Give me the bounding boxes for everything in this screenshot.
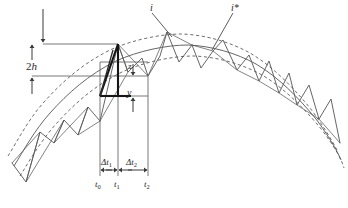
i-star-leader-line: [212, 13, 233, 50]
switched-current-zigzag-group: [12, 32, 340, 182]
figure-canvas: [0, 0, 348, 208]
t1-axis-label: t1: [114, 180, 120, 190]
reference-current-i-star-curve: [14, 45, 341, 166]
i-leader-line: [152, 13, 172, 37]
switched-current-left-crossing-strand: [12, 107, 100, 182]
delta-t1-label: Δt1: [101, 158, 112, 168]
signal-label-i: i: [150, 3, 153, 13]
reference-current-curve-group: [14, 45, 341, 166]
lower-hysteresis-band-curve: [20, 56, 344, 176]
reference-signal-label-i-star: i*: [231, 3, 239, 13]
switched-current-left-zigzag: [12, 107, 100, 182]
delta-t2-label: Δt2: [126, 158, 137, 168]
small-offset-label-z: z: [128, 62, 132, 71]
t2-axis-label: t2: [144, 180, 150, 190]
t0-axis-label: t0: [95, 180, 101, 190]
leader-lines-group: [152, 13, 233, 50]
amplitude-label-2h: 22hh: [26, 61, 37, 72]
figure-root: 22hh i i* z y Δt1 Δt2 t0 t1 t2: [0, 0, 348, 208]
ripple-label-y: y: [127, 88, 131, 98]
switched-current-crossing-strands: [100, 32, 340, 143]
switched-current-right-zigzag: [192, 40, 340, 143]
